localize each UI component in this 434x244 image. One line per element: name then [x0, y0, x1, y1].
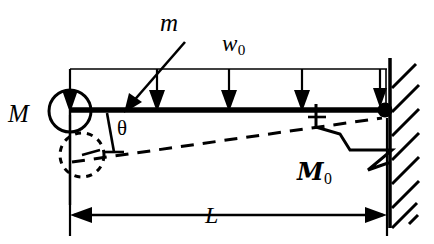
spring-moment-subscript: 0 — [324, 170, 332, 187]
wall-hatch-icon — [392, 64, 419, 228]
distributed-load-group — [70, 69, 387, 112]
pin-support-icon — [378, 103, 393, 118]
angle-label: θ — [117, 118, 127, 139]
dim-arrowhead-left — [70, 207, 92, 223]
displaced-mass-radius — [82, 150, 100, 155]
load-arrow — [294, 69, 310, 112]
load-arrow — [221, 69, 237, 112]
distributed-load-label: w0 — [222, 32, 245, 57]
angle-leader-line — [107, 113, 114, 152]
mass-label: M — [8, 101, 29, 126]
displaced-mass-group — [60, 133, 104, 177]
mass-m-label: m — [160, 10, 178, 35]
distributed-load-subscript: 0 — [238, 41, 246, 58]
wall-group — [390, 58, 419, 228]
beam-diagram-figure: M m w0 θ M0 L — [0, 0, 434, 244]
load-arrow — [373, 69, 387, 108]
spring-moment-symbol: M — [297, 157, 324, 186]
dim-arrowhead-right — [365, 207, 387, 223]
span-length-label: L — [205, 203, 218, 227]
spring-moment-label: M0 — [297, 160, 332, 187]
distributed-load-symbol: w — [222, 31, 237, 56]
